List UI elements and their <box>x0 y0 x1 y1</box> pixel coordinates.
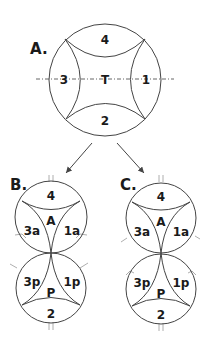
lower-left-tick <box>10 264 17 268</box>
region-3a: 3a <box>134 225 150 239</box>
region-center: T <box>101 73 110 87</box>
upper-left-tick <box>121 238 127 242</box>
top-tick <box>159 175 163 182</box>
region-1a: 1a <box>173 225 189 239</box>
region-4: 4 <box>101 33 109 47</box>
region-3p: 3p <box>134 276 151 290</box>
region-1a: 1a <box>64 224 80 238</box>
region-2: 2 <box>157 308 165 322</box>
arrow-to-b <box>66 143 92 173</box>
region-1p: 1p <box>64 275 81 289</box>
arrow-to-c <box>117 143 144 173</box>
panel-c-label: C. <box>120 176 137 194</box>
region-p: P <box>47 286 56 300</box>
region-2: 2 <box>101 114 109 128</box>
upper-right-tick <box>195 236 200 239</box>
panel-a-label: A. <box>30 40 48 58</box>
division-diagram: A. 4 3 T 1 2 B. 4 A 3 <box>0 0 205 345</box>
region-a: A <box>46 214 56 228</box>
region-4: 4 <box>47 189 55 203</box>
region-1p: 1p <box>173 276 190 290</box>
panel-c: C. 4 A 3a 1a 3p P 1p 2 <box>120 175 200 331</box>
lower-right-tick <box>80 263 88 268</box>
region-p: P <box>157 287 166 301</box>
region-4: 4 <box>157 190 165 204</box>
region-2: 2 <box>47 307 55 321</box>
region-a: A <box>156 215 166 229</box>
region-3p: 3p <box>24 275 41 289</box>
panel-a: A. 4 3 T 1 2 <box>30 24 174 136</box>
region-3a: 3a <box>24 224 40 238</box>
region-1: 1 <box>142 73 150 87</box>
region-3: 3 <box>60 73 68 87</box>
panel-b-label: B. <box>10 176 27 194</box>
panel-b: B. 4 A 3a 1a 3p P 1p 2 <box>10 175 88 330</box>
